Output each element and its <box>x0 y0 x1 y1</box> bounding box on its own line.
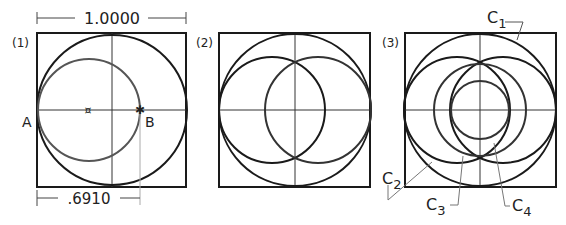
callout-c4: C4 <box>512 196 531 219</box>
dimension-bottom: .6910 <box>68 190 111 208</box>
panel-3-label: (3) <box>382 36 399 50</box>
callout-c3: C3 <box>426 195 445 218</box>
panel-2-label: (2) <box>196 36 213 50</box>
compass-mark-icon: ✱ <box>135 103 145 117</box>
panel-1-label: (1) <box>12 36 29 50</box>
point-b-label: B <box>145 114 155 130</box>
callout-c2: C2 <box>382 169 401 192</box>
construction-diagram: 1.0000 (1) ¤ ✱ A B .6910 (2) (3) <box>0 0 566 225</box>
panel-2: (2) <box>196 33 371 187</box>
callout-c1: C1 <box>487 8 506 31</box>
panel-1: 1.0000 (1) ¤ ✱ A B .6910 <box>12 9 187 208</box>
dimension-top: 1.0000 <box>84 9 140 28</box>
point-a-label: A <box>22 114 32 130</box>
panel-3: (3) C1 C2 C3 C4 <box>382 8 556 219</box>
center-mark-icon: ¤ <box>85 104 92 117</box>
